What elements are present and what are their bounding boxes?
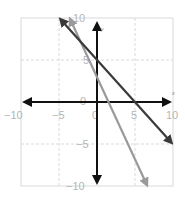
tick-y-neg5: −5 <box>76 138 89 150</box>
tick-x-5: 5 <box>131 109 137 121</box>
tick-x-10: 10 <box>166 109 178 121</box>
tick-x-neg5: −5 <box>52 109 65 121</box>
line-1-dark <box>62 21 170 141</box>
y-axis-label: y <box>100 26 104 32</box>
tick-x-neg10: −10 <box>4 109 23 121</box>
coordinate-plane: −10 −5 0 5 10 10 5 0 −5 −10 x y <box>0 0 185 199</box>
tick-y-10: 10 <box>73 12 85 24</box>
x-axis-label: x <box>171 90 175 96</box>
tick-y-neg10: −10 <box>66 180 85 192</box>
